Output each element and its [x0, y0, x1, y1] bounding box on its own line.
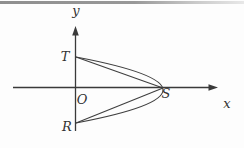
y-axis-arrowhead: [72, 26, 79, 36]
y-axis-label: y: [71, 3, 80, 18]
parabola-curve: [76, 57, 163, 123]
x-axis-arrowhead: [209, 84, 219, 91]
geometry-diagram: y x T O R S: [0, 0, 244, 148]
origin-label: O: [77, 92, 88, 107]
chord-ts: [76, 57, 163, 88]
x-axis-label: x: [223, 96, 231, 111]
point-r-label: R: [61, 119, 72, 134]
chord-rs: [76, 88, 163, 123]
point-t-label: T: [61, 49, 71, 64]
figure-canvas: y x T O R S: [0, 0, 244, 148]
point-s-label: S: [162, 86, 171, 101]
